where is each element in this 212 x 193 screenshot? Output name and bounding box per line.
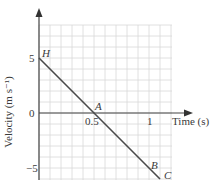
y-tick-neg5: −5 bbox=[26, 163, 38, 174]
velocity-line bbox=[39, 58, 160, 179]
point-label-b: B bbox=[151, 160, 158, 171]
x-axis-label: Time (s) bbox=[172, 116, 209, 127]
point-label-h: H bbox=[42, 48, 50, 59]
y-axis-label: Velocity (m s⁻¹) bbox=[2, 76, 15, 147]
point-label-a: A bbox=[95, 101, 102, 112]
x-tick-0.5: 0.5 bbox=[85, 116, 99, 127]
y-tick-5: 5 bbox=[29, 53, 35, 64]
x-tick-1: 1 bbox=[147, 116, 153, 127]
y-tick-0: 0 bbox=[29, 108, 35, 119]
grid bbox=[39, 25, 172, 180]
y-axis-arrow-icon bbox=[36, 8, 43, 17]
point-label-c: C bbox=[164, 170, 171, 181]
